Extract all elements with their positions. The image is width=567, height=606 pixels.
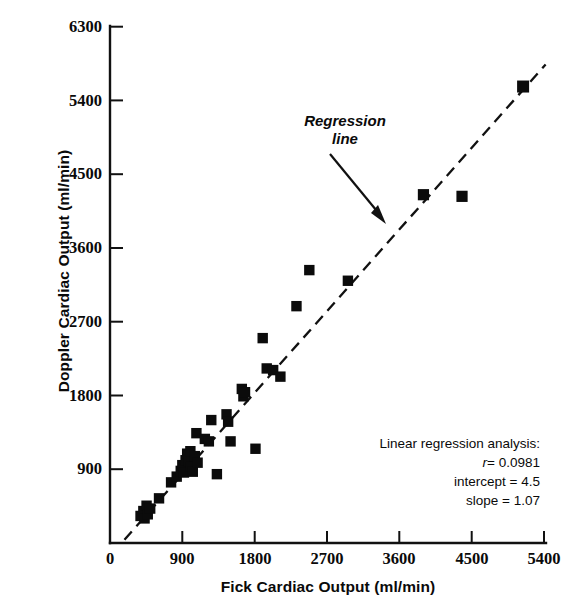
data-point (145, 503, 155, 513)
x-tick-label-3600: 3600 (372, 549, 426, 569)
data-point (192, 457, 202, 467)
x-axis-ticks (182, 531, 544, 543)
x-tick-label-1800: 1800 (228, 549, 282, 569)
regression-annotation-arrow (330, 154, 386, 224)
y-tick-label-900: 900 (48, 459, 102, 479)
stats-heading: Linear regression analysis: (318, 434, 540, 453)
data-point (250, 444, 260, 454)
stats-correlation: r= 0.0981 (318, 453, 540, 472)
x-tick-label-5400: 5400 (517, 549, 567, 569)
data-point (418, 189, 429, 200)
x-tick-label-900: 900 (155, 549, 209, 569)
data-point (240, 387, 250, 397)
stats-slope: slope = 1.07 (318, 491, 540, 510)
x-axis-title: Fick Cardiac Output (ml/min) (110, 578, 546, 596)
data-point (212, 469, 222, 479)
cardiac-output-scatter-figure: 6300 5400 4500 3600 2700 1800 900 0 900 … (0, 0, 567, 606)
regression-statistics-block: Linear regression analysis: r= 0.0981 in… (318, 434, 540, 511)
regression-line-label-line1: Regression (280, 112, 410, 130)
x-tick-label-0: 0 (83, 549, 137, 569)
data-point (517, 81, 529, 93)
regression-line-label: Regression line (280, 112, 410, 147)
y-tick-label-6300: 6300 (48, 17, 102, 37)
data-point (343, 276, 353, 286)
data-point (204, 436, 214, 446)
x-tick-label-4500: 4500 (445, 549, 499, 569)
stats-correlation-value: = 0.0981 (487, 455, 540, 470)
data-point (154, 493, 164, 503)
data-point (188, 467, 198, 477)
data-point (304, 265, 314, 275)
x-tick-label-2700: 2700 (300, 549, 354, 569)
regression-line-label-line2: line (280, 130, 410, 148)
data-point (291, 301, 301, 311)
data-point (275, 371, 285, 381)
stats-intercept: intercept = 4.5 (318, 472, 540, 491)
data-point (456, 191, 467, 202)
data-point (225, 436, 235, 446)
y-axis-title: Doppler Cardiac Output (ml/min) (55, 111, 73, 431)
data-point (258, 333, 268, 343)
data-point (223, 417, 233, 427)
y-axis-ticks (110, 27, 123, 470)
y-tick-label-5400: 5400 (48, 91, 102, 111)
data-point (206, 415, 216, 425)
